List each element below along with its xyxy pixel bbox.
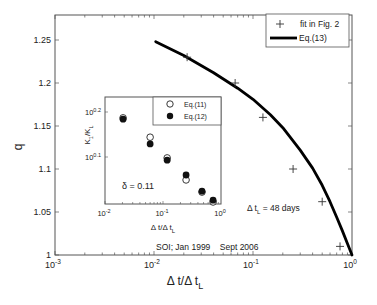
main-y-axis-label: q — [11, 144, 25, 151]
svg-text:1.05: 1.05 — [33, 207, 51, 217]
inset-chart: 10-210-1100 100.1100.2 Δ t/Δ tL K1/KL Eq… — [83, 97, 226, 234]
svg-text:100.1: 100.1 — [85, 152, 101, 162]
inset-x-tick-labels: 10-210-1100 — [97, 208, 225, 218]
main-legend: fit in Fig. 2 Eq.(13) — [266, 14, 349, 47]
svg-text:10-1: 10-1 — [155, 208, 168, 218]
svg-text:100: 100 — [214, 208, 225, 218]
svg-text:10-2: 10-2 — [97, 208, 110, 218]
legend-open-circle-icon — [167, 101, 173, 107]
svg-text:1.25: 1.25 — [33, 35, 51, 45]
svg-text:1: 1 — [46, 250, 51, 260]
svg-text:100: 100 — [343, 258, 357, 270]
svg-text:10-2: 10-2 — [144, 258, 160, 270]
legend-label-eq13: Eq.(13) — [299, 33, 327, 43]
legend-filled-circle-icon — [167, 113, 173, 119]
main-x-tick-labels: 10-310-210-1100 — [45, 258, 357, 270]
legend-label-eq12: Eq.(12) — [184, 113, 207, 121]
inset-x-axis-label: Δ t/Δ tL — [151, 223, 176, 234]
delta-annotation: δ = 0.11 — [122, 181, 154, 191]
inset-y-axis-label: K1/KL — [83, 125, 94, 144]
delta-tl-annotation: Δ tL = 48 days — [247, 203, 300, 215]
svg-text:1.15: 1.15 — [33, 121, 51, 131]
legend-label-eq11: Eq.(11) — [184, 101, 206, 109]
chart-figure: 10-310-210-1100 11.051.11.151.21.25 Δ t/… — [0, 0, 377, 305]
svg-text:1.2: 1.2 — [38, 78, 51, 88]
svg-text:100.2: 100.2 — [85, 107, 101, 117]
legend-label-fit: fit in Fig. 2 — [300, 19, 339, 29]
svg-text:10-1: 10-1 — [243, 258, 259, 270]
soi-annotation: SOI; Jan 1999 Sept 2006 — [156, 242, 259, 252]
inset-legend: Eq.(11) Eq.(12) — [153, 97, 221, 125]
main-x-axis-label: Δ t/Δ tL — [167, 274, 203, 291]
main-y-tick-labels: 11.051.11.151.21.25 — [33, 35, 51, 260]
svg-text:1.1: 1.1 — [38, 164, 51, 174]
